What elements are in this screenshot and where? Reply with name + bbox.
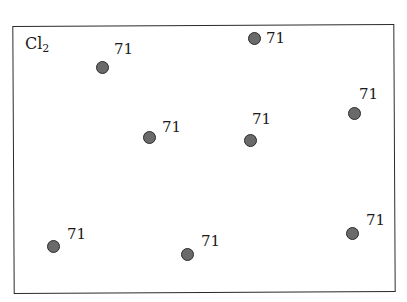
molecule-dot — [244, 134, 257, 147]
molar-mass-label: 71 — [359, 87, 378, 102]
molecule-dot — [248, 32, 261, 45]
formula-base: Cl — [25, 34, 42, 53]
formula-subscript: 2 — [42, 42, 49, 55]
molar-mass-label: 71 — [366, 213, 385, 228]
container-box — [12, 24, 395, 294]
molar-mass-label: 71 — [162, 120, 181, 135]
molar-mass-label: 71 — [201, 234, 220, 249]
molar-mass-label: 71 — [252, 112, 271, 127]
molecule-dot — [346, 227, 359, 240]
molecule-dot — [181, 248, 194, 261]
molecule-dot — [47, 240, 60, 253]
molar-mass-label: 71 — [67, 227, 86, 242]
molar-mass-label: 71 — [266, 31, 285, 46]
molecule-dot — [96, 61, 109, 74]
substance-label: Cl2 — [25, 34, 49, 55]
molecule-dot — [143, 131, 156, 144]
molar-mass-label: 71 — [114, 42, 133, 57]
molecule-dot — [348, 107, 361, 120]
